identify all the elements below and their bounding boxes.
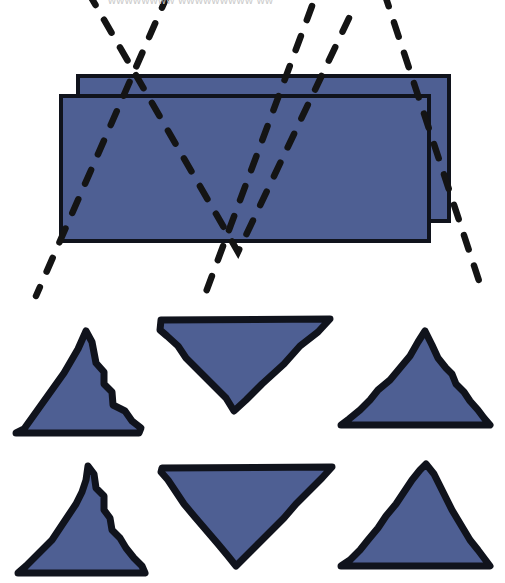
figure-canvas xyxy=(0,0,505,583)
figure-root: wwwwwwww wwwwwwwww ww xyxy=(0,0,505,583)
